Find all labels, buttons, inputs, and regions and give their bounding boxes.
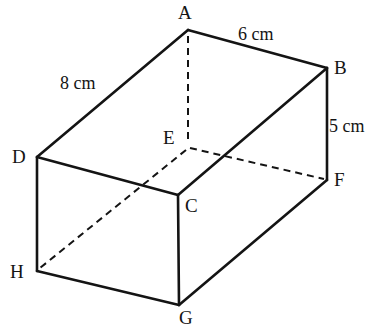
diagram-canvas: A B C D E F G H 6 cm 8 cm 5 cm bbox=[0, 0, 376, 331]
vertex-label-F: F bbox=[334, 170, 345, 189]
vertex-label-B: B bbox=[334, 58, 347, 77]
vertex-label-C: C bbox=[185, 196, 198, 215]
dimension-label-8cm: 8 cm bbox=[60, 74, 96, 92]
edge-H-G bbox=[37, 271, 179, 305]
vertex-label-A: A bbox=[178, 3, 192, 22]
edge-E-F bbox=[190, 148, 324, 179]
edge-D-C bbox=[37, 157, 178, 195]
hidden-edge-group bbox=[40, 36, 324, 268]
solid-edge-group bbox=[37, 30, 327, 305]
vertex-label-D: D bbox=[12, 147, 26, 166]
cuboid-figure bbox=[0, 0, 376, 331]
dimension-label-5cm: 5 cm bbox=[329, 117, 365, 135]
vertex-label-H: H bbox=[10, 262, 24, 281]
dimension-label-6cm: 6 cm bbox=[238, 25, 274, 43]
vertex-label-E: E bbox=[163, 128, 175, 147]
vertex-label-G: G bbox=[179, 308, 193, 327]
edge-C-G bbox=[178, 195, 179, 305]
edge-B-C bbox=[178, 68, 327, 195]
edge-E-H bbox=[40, 150, 186, 268]
edge-G-F bbox=[179, 180, 327, 305]
